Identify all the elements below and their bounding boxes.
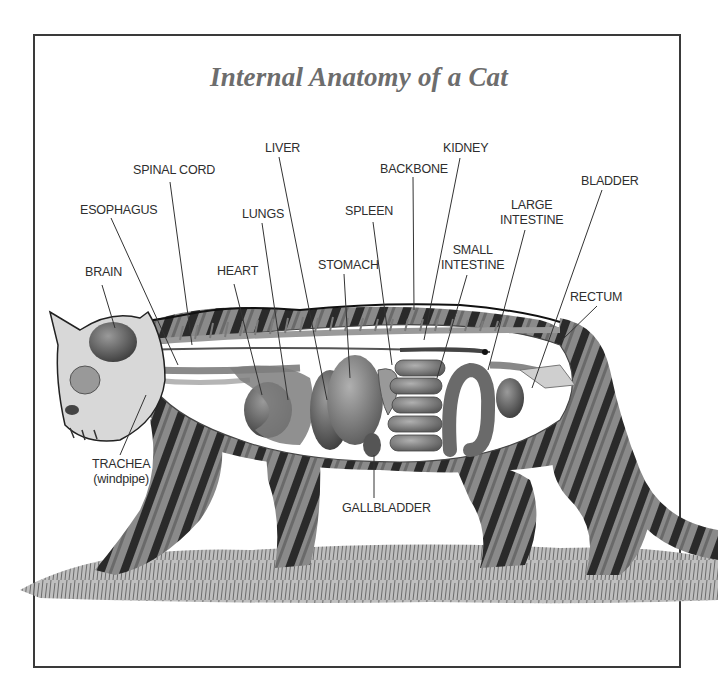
- label-lungs: LUNGS: [242, 207, 284, 222]
- label-small-intestine-line2: INTESTINE: [441, 258, 504, 273]
- label-backbone: BACKBONE: [380, 162, 448, 177]
- label-esophagus: ESOPHAGUS: [80, 203, 157, 218]
- label-large-intestine-line2: INTESTINE: [500, 213, 563, 228]
- stomach-organ: [327, 355, 383, 445]
- bladder-organ: [496, 378, 524, 418]
- label-bladder: BLADDER: [581, 174, 639, 189]
- label-heart: HEART: [217, 264, 258, 279]
- label-large-intestine: LARGE INTESTINE: [500, 198, 563, 228]
- label-trachea: TRACHEA (windpipe): [92, 457, 150, 487]
- label-trachea-line1: TRACHEA: [92, 457, 150, 472]
- label-kidney: KIDNEY: [443, 141, 488, 156]
- label-liver: LIVER: [265, 141, 300, 156]
- label-small-intestine: SMALL INTESTINE: [441, 243, 504, 273]
- label-spleen: SPLEEN: [345, 204, 393, 219]
- label-small-intestine-line1: SMALL: [441, 243, 504, 258]
- cat-head: [50, 312, 165, 441]
- gallbladder-organ: [363, 433, 381, 457]
- label-trachea-line2: (windpipe): [92, 472, 150, 487]
- label-brain: BRAIN: [85, 265, 122, 280]
- label-stomach: STOMACH: [318, 258, 379, 273]
- label-gallbladder: GALLBLADDER: [342, 501, 431, 516]
- label-spinal-cord: SPINAL CORD: [133, 163, 215, 178]
- cat-illustration: [0, 0, 718, 692]
- brain-organ: [89, 322, 137, 362]
- label-large-intestine-line1: LARGE: [500, 198, 563, 213]
- label-rectum: RECTUM: [570, 290, 622, 305]
